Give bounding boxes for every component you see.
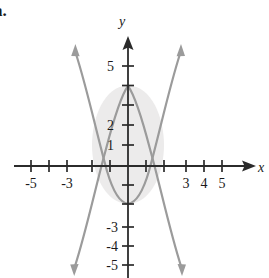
y-tick-label-2: 2 — [107, 118, 114, 133]
y-tick-label-neg5: -5 — [106, 258, 118, 273]
y-axis-label: y — [117, 14, 126, 29]
downward-parabola-left-arrow-icon — [70, 264, 78, 276]
x-tick-label-neg3: -3 — [61, 176, 73, 191]
y-tick-label-neg3: -3 — [106, 220, 118, 235]
x-tick-label-5: 5 — [219, 176, 226, 191]
x-tick-label-4: 4 — [201, 176, 208, 191]
y-tick-label-1: 1 — [107, 138, 114, 153]
upward-parabola-right-arrow-icon — [177, 44, 185, 56]
upward-parabola-left-arrow-icon — [71, 44, 79, 56]
x-axis-label: x — [257, 160, 265, 175]
x-tick-label-neg5: -5 — [25, 176, 37, 191]
y-tick-label-5: 5 — [107, 59, 114, 74]
y-tick-label-neg4: -4 — [106, 239, 118, 254]
downward-parabola-right-arrow-icon — [178, 264, 186, 276]
coordinate-plane-svg: y x 5 2 1 -3 -4 -5 -5 -3 3 4 5 — [0, 0, 269, 278]
x-tick-label-3: 3 — [183, 176, 190, 191]
graph-figure: y x 5 2 1 -3 -4 -5 -5 -3 3 4 5 — [0, 0, 269, 278]
